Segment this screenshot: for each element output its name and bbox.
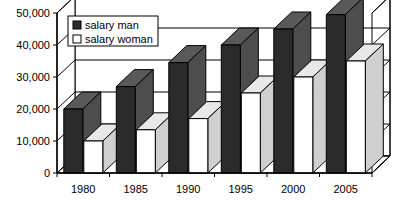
bar-front-face xyxy=(346,61,365,173)
bar-group-1990: 1990 xyxy=(176,183,200,195)
bar-front-face xyxy=(326,15,345,173)
salary-bar-chart: 010,00020,00030,00040,00050,000198019851… xyxy=(0,0,413,206)
chart-canvas: 010,00020,00030,00040,00050,000198019851… xyxy=(0,0,413,206)
legend-swatch-woman xyxy=(73,35,81,43)
bar-front-face xyxy=(84,141,103,173)
y-axis-label-20000: 20,000 xyxy=(16,103,50,115)
bar-group-1985: 1985 xyxy=(124,183,148,195)
x-axis-label-1990: 1990 xyxy=(176,183,200,195)
bar-group-2005: 2005 xyxy=(334,183,358,195)
bar-side-face xyxy=(365,44,383,173)
x-axis-label-2000: 2000 xyxy=(281,183,305,195)
legend-swatch-man xyxy=(73,21,81,29)
bar-front-face xyxy=(241,93,260,173)
bar-2005-woman xyxy=(346,44,383,173)
bar-group-1995: 1995 xyxy=(229,183,253,195)
legend-label-woman: salary woman xyxy=(85,33,153,45)
y-axis-label-40000: 40,000 xyxy=(16,39,50,51)
legend-label-man: salary man xyxy=(85,19,139,31)
bar-group-1980: 1980 xyxy=(71,183,95,195)
bar-front-face xyxy=(294,77,313,173)
y-axis-label-0: 0 xyxy=(44,167,50,179)
bar-2000-woman xyxy=(294,60,331,173)
y-axis-label-10000: 10,000 xyxy=(16,135,50,147)
x-axis-label-1980: 1980 xyxy=(71,183,95,195)
x-axis-label-2005: 2005 xyxy=(334,183,358,195)
bar-front-face xyxy=(274,29,293,173)
bar-front-face xyxy=(189,119,208,173)
bar-group-2000: 2000 xyxy=(281,183,305,195)
bar-1995-woman xyxy=(241,76,278,173)
y-axis-label-30000: 30,000 xyxy=(16,71,50,83)
bar-front-face xyxy=(64,109,83,173)
bar-front-face xyxy=(136,130,155,173)
x-axis-label-1995: 1995 xyxy=(229,183,253,195)
bar-front-face xyxy=(221,45,240,173)
chart-legend: salary mansalary woman xyxy=(68,16,158,46)
x-axis-label-1985: 1985 xyxy=(124,183,148,195)
bar-front-face xyxy=(169,63,188,173)
bar-front-face xyxy=(116,87,135,173)
y-axis-label-50000: 50,000 xyxy=(16,7,50,19)
